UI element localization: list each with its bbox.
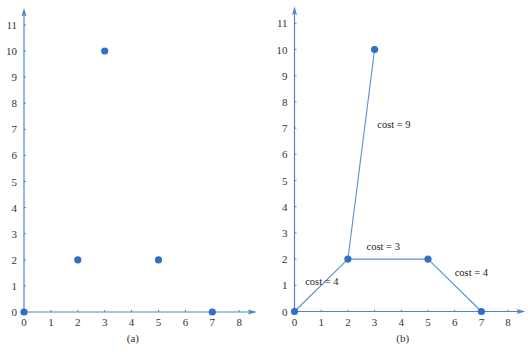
data-point [424,256,431,263]
y-tick-label: 9 [282,70,288,82]
y-tick-label: 10 [6,45,18,57]
x-tick-label: 8 [236,316,242,328]
chart-canvas: 01234567801234567891011(a)01234567801234… [0,0,528,354]
chart-caption: (a) [127,332,140,345]
y-tick-label: 10 [277,44,289,56]
data-point [74,256,81,263]
x-tick-label: 5 [425,316,431,328]
edge-cost-label: cost = 4 [455,267,489,278]
data-point [478,308,485,315]
y-tick-label: 7 [282,122,288,134]
x-tick-label: 1 [318,316,324,328]
chart-b: 01234567801234567891011cost = 4cost = 9c… [277,6,526,344]
x-tick-label: 4 [129,316,135,328]
y-tick-label: 8 [12,97,18,109]
y-tick-label: 1 [12,280,18,292]
y-tick-label: 5 [12,176,18,188]
y-tick-label: 2 [282,253,288,265]
y-tick-label: 5 [282,175,288,187]
y-tick-label: 11 [277,17,288,29]
data-point [371,46,378,53]
y-tick-label: 0 [12,306,18,318]
y-tick-label: 0 [282,306,288,318]
data-point [20,308,27,315]
x-tick-label: 3 [372,316,378,328]
y-tick-label: 3 [282,227,288,239]
chart-caption: (b) [396,332,409,345]
x-tick-label: 4 [399,316,405,328]
y-tick-label: 3 [12,228,18,240]
y-tick-label: 8 [282,96,288,108]
y-tick-label: 1 [282,279,288,291]
x-tick-label: 6 [452,316,458,328]
data-point [101,47,108,54]
x-tick-label: 1 [48,316,54,328]
chart-a: 01234567801234567891011(a) [6,8,257,345]
x-tick-label: 0 [21,316,27,328]
edge-cost-label: cost = 9 [377,119,410,130]
data-point [344,256,351,263]
y-tick-label: 4 [282,201,288,213]
x-tick-label: 6 [183,316,189,328]
y-tick-label: 2 [12,254,18,266]
x-tick-label: 5 [156,316,162,328]
edge-cost-label: cost = 4 [305,276,339,287]
x-tick-label: 2 [75,316,81,328]
data-point [209,308,216,315]
y-tick-label: 6 [282,148,288,160]
x-tick-label: 7 [479,316,485,328]
data-point [155,256,162,263]
x-tick-label: 2 [345,316,351,328]
edge-cost-label: cost = 3 [367,241,400,252]
y-tick-label: 6 [12,149,18,161]
data-point [291,308,298,315]
y-tick-label: 7 [12,123,18,135]
x-tick-label: 0 [292,316,298,328]
x-tick-label: 8 [505,316,511,328]
y-tick-label: 4 [12,202,18,214]
x-tick-label: 7 [210,316,216,328]
x-tick-label: 3 [102,316,108,328]
edge-line [348,50,375,260]
y-tick-label: 9 [12,71,18,83]
y-tick-label: 11 [6,19,17,31]
